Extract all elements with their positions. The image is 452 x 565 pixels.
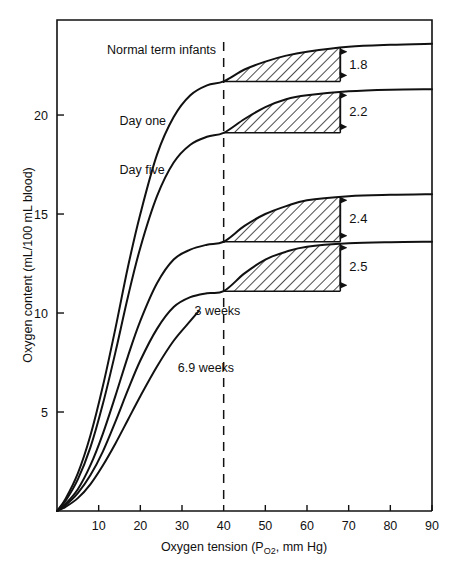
chart-canvas: 102030405060708090 5101520 1.82.22.42.5 …	[0, 0, 452, 565]
y-tick-label-10: 10	[34, 307, 48, 321]
curve-label-day-five: Day five	[120, 163, 165, 177]
x-tick-label-80: 80	[383, 519, 397, 533]
y-tick-label-15: 15	[34, 208, 48, 222]
curve-label-3-weeks: 3 weeks	[195, 304, 241, 318]
x-tick-label-20: 20	[133, 519, 147, 533]
x-tick-label-10: 10	[92, 519, 106, 533]
x-tick-label-40: 40	[217, 519, 231, 533]
y-axis-title-text: Oxygen content (mL/100 mL blood)	[21, 167, 35, 362]
y-axis-title: Oxygen content (mL/100 mL blood)	[21, 167, 35, 362]
x-tick-label-60: 60	[300, 519, 314, 533]
gap-value-label-2.2: 2.2	[349, 104, 367, 119]
gap-value-label-1.8: 1.8	[349, 57, 367, 72]
curve-label-day-one: Day one	[120, 114, 167, 128]
x-axis-title: Oxygen tension (PO2, mm Hg)	[161, 540, 327, 556]
x-axis-title-main: Oxygen tension (P	[161, 540, 264, 554]
chart-background	[0, 0, 452, 565]
gap-value-label-2.5: 2.5	[349, 259, 367, 274]
x-tick-label-90: 90	[425, 519, 439, 533]
x-axis-title-tail: , mm Hg)	[276, 540, 327, 554]
y-tick-label-5: 5	[41, 406, 48, 420]
x-axis-title-subscript: O2	[264, 546, 276, 556]
x-tick-label-50: 50	[258, 519, 272, 533]
curve-label-6-9-weeks: 6.9 weeks	[178, 361, 234, 375]
x-tick-label-30: 30	[175, 519, 189, 533]
x-axis-tick-labels: 102030405060708090	[92, 519, 439, 533]
oxygen-dissociation-chart: 102030405060708090 5101520 1.82.22.42.5 …	[0, 0, 452, 565]
curve-label-normal-term-infants: Normal term infants	[107, 43, 216, 57]
y-tick-label-20: 20	[34, 109, 48, 123]
x-tick-label-70: 70	[342, 519, 356, 533]
svg-text:Oxygen tension (PO2, mm Hg): Oxygen tension (PO2, mm Hg)	[161, 540, 327, 556]
gap-value-label-2.4: 2.4	[349, 211, 367, 226]
